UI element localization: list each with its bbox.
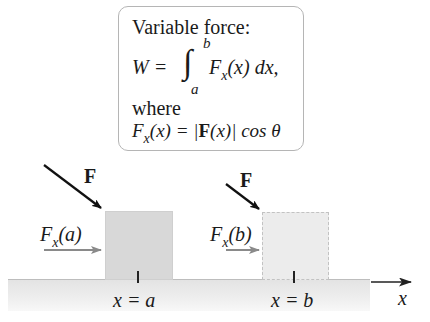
axis-label-x: x (398, 288, 407, 308)
component-b-F: F (210, 223, 222, 245)
force-label-a: F (84, 166, 96, 186)
position-label-b: x = b (271, 290, 313, 310)
component-a-F: F (40, 223, 52, 245)
position-label-a: x = a (113, 290, 155, 310)
force-label-b: F (240, 170, 252, 190)
component-a-arg: (a) (58, 223, 81, 245)
arrows-layer (0, 0, 430, 322)
component-b-arg: (b) (228, 223, 251, 245)
component-label-a: Fx(a) (40, 224, 82, 244)
component-a-subscript: x (52, 235, 58, 250)
component-label-b: Fx(b) (210, 224, 252, 244)
component-b-subscript: x (222, 235, 228, 250)
